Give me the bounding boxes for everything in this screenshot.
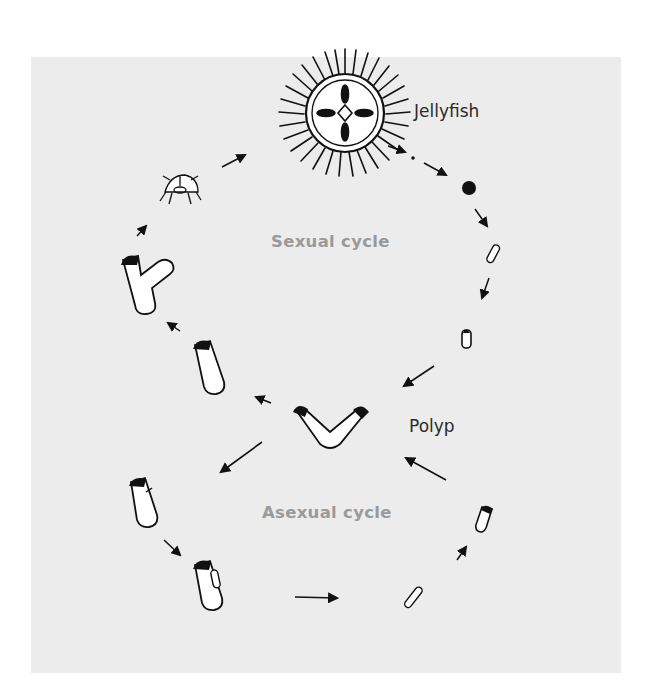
sexual-cycle-label: Sexual cycle bbox=[271, 232, 390, 251]
gamete-icon bbox=[411, 156, 415, 160]
asexual-cycle-label: Asexual cycle bbox=[262, 503, 392, 522]
free-bud-icon bbox=[403, 586, 423, 609]
single-polyp-icon bbox=[193, 341, 224, 395]
jellyfish-medusa-icon bbox=[279, 49, 410, 176]
arrow-ephyra-to-medusa bbox=[222, 155, 245, 167]
arrow-gamete-to-egg bbox=[424, 163, 446, 175]
detaching-bud-icon bbox=[129, 478, 157, 527]
fertilized-egg-icon bbox=[462, 181, 476, 195]
planula-larva-icon bbox=[486, 244, 501, 264]
polyp-icon bbox=[293, 406, 369, 448]
arrow-detaching-to-budding bbox=[164, 540, 180, 555]
young-polyp-icon bbox=[476, 506, 493, 532]
arrow-bud-to-young-polyp bbox=[457, 547, 466, 560]
arrow-branching-to-ephyra bbox=[137, 226, 146, 236]
jellyfish-label: Jellyfish bbox=[414, 101, 479, 121]
arrow-larva-to-polyp bbox=[404, 366, 434, 386]
arrow-egg-to-planula bbox=[475, 209, 487, 226]
polyp-label: Polyp bbox=[409, 416, 455, 436]
arrow-planula-to-settled bbox=[482, 278, 489, 298]
arrow-medusa-to-gamete bbox=[388, 146, 405, 152]
ephyra-icon bbox=[160, 175, 201, 204]
arrow-polyp-to-detaching bbox=[221, 442, 262, 472]
branching-polyp-icon bbox=[121, 256, 174, 314]
arrow-polyp-to-strobila bbox=[256, 397, 271, 403]
arrow-single-to-branching bbox=[168, 323, 180, 331]
arrow-budding-to-bud bbox=[295, 597, 337, 598]
settled-larva-icon bbox=[462, 330, 471, 349]
arrow-young-polyp-to-polyp bbox=[406, 458, 446, 480]
budding-polyp-icon bbox=[193, 561, 222, 611]
life-cycle-diagram bbox=[0, 0, 649, 698]
